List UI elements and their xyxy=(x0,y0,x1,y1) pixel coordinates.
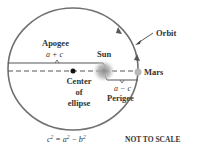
ellipse-equation: c2 = a2 − b2 xyxy=(47,134,86,144)
mars-icon xyxy=(135,69,142,76)
perigee-label: Perigee xyxy=(107,93,134,103)
center-of-ellipse-label: ellipse xyxy=(68,98,91,108)
perigee-formula-label: a − c xyxy=(114,84,131,93)
sun-label: Sun xyxy=(97,49,111,59)
center-of-ellipse-label: of xyxy=(75,87,82,97)
not-to-scale-note: NOT TO SCALE xyxy=(125,135,180,144)
apogee-label: Apogee xyxy=(42,38,69,48)
apogee-formula-label: a + c xyxy=(46,50,63,59)
orbit-label: Orbit xyxy=(156,28,176,38)
center-of-ellipse-label: Center xyxy=(66,76,91,86)
orbit-pointer-arrowhead-icon xyxy=(135,40,141,45)
orbit-diagram: Apogee a + c Sun Mars Orbit Center of el… xyxy=(0,0,203,154)
mars-label: Mars xyxy=(144,67,164,77)
center-of-ellipse-dot xyxy=(71,69,76,74)
orbit-direction-arrow-icon xyxy=(134,54,140,61)
sun-icon xyxy=(93,60,115,82)
